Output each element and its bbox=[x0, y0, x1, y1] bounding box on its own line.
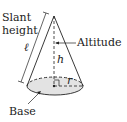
base-pointer bbox=[28, 92, 40, 104]
slant-height-label-line1: Slant bbox=[2, 12, 31, 23]
radius-symbol: r bbox=[67, 75, 72, 86]
cone-diagram: Slant height Altitude Base ℓ h r bbox=[0, 0, 127, 122]
altitude-symbol: h bbox=[57, 54, 64, 65]
slant-height-label-line2: height bbox=[2, 25, 38, 36]
altitude-label: Altitude bbox=[77, 37, 121, 48]
center-point bbox=[53, 85, 55, 87]
altitude-arrowhead bbox=[55, 42, 59, 45]
base-label: Base bbox=[9, 106, 36, 117]
slant-height-symbol: ℓ bbox=[24, 42, 29, 53]
